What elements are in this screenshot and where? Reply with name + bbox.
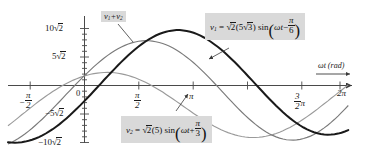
y-tick-coef-3: 10 xyxy=(43,137,52,147)
callout-sum-v2-sub: 2 xyxy=(120,15,123,21)
x-tick-label-neg-pi-over-2: − π 2 xyxy=(19,91,32,111)
radical-icon: √2 xyxy=(52,137,61,147)
x-tick-label-2pi: 2π xyxy=(337,89,346,98)
x-tick-after-4: π xyxy=(301,98,306,108)
radical-icon: √2 xyxy=(57,51,66,61)
x-tick-den-2: 2 xyxy=(134,101,141,110)
x-tick-label-3pi-over-2: 3 2 π xyxy=(294,92,305,112)
y-tick-label-neg5sqrt2: −5√2 xyxy=(45,108,64,118)
x-tick-label-pi: π xyxy=(189,92,194,101)
radical-icon: √3 xyxy=(243,22,252,32)
callout-v1-arg-var: ωt xyxy=(274,22,283,32)
callout-v1-lhs-sub: 1 xyxy=(214,26,217,32)
radical-icon: √2 xyxy=(54,23,63,33)
radical-icon: √2 xyxy=(142,125,151,135)
callout-v2-lhs-sub: 2 xyxy=(130,129,133,135)
radical-icon: √2 xyxy=(226,22,235,32)
origin-label: 0 xyxy=(76,89,80,98)
y-tick-label-10sqrt2: 10√2 xyxy=(45,23,63,33)
callout-v1-close: ) xyxy=(253,22,256,32)
x-tick-den-0: 2 xyxy=(25,101,32,110)
y-tick-label-5sqrt2: 5√2 xyxy=(52,51,66,61)
leader-line-sum xyxy=(118,24,133,42)
y-tick-radicand-3: 2 xyxy=(56,137,62,147)
callout-v2-eq: = xyxy=(135,125,140,135)
callout-v1-fn: sin xyxy=(258,22,269,32)
radical-icon: √2 xyxy=(55,108,64,118)
callout-v2-close: ) xyxy=(159,125,162,135)
close-paren-icon: ) xyxy=(201,124,207,143)
y-tick-radicand-2: 2 xyxy=(59,108,65,118)
x-tick-label-pi-over-2: π 2 xyxy=(134,91,141,111)
callout-sum: v1+v2 xyxy=(101,11,126,22)
callout-v2-fn: sin xyxy=(165,125,176,135)
y-tick-radicand-0: 2 xyxy=(58,23,64,33)
callout-v1-eq: = xyxy=(219,22,224,32)
figure-canvas: 10√2 5√2 −5√2 −10√2 − π 2 0 π 2 π 3 2 π … xyxy=(0,0,381,155)
y-tick-coef-0: 10 xyxy=(45,23,54,33)
callout-v2-equation: v2 = √2(5) sin(ωt+ π 3 ) xyxy=(121,116,212,143)
callout-v1-equation: v1 = √2(5√3) sin(ωt− π 6 ) xyxy=(205,13,305,40)
x-axis-title: ωt (rad) xyxy=(318,62,344,70)
close-paren-icon: ) xyxy=(295,21,301,40)
callout-v2-arg-var: ωt xyxy=(181,125,190,135)
y-tick-radicand-1: 2 xyxy=(60,51,66,61)
y-tick-label-neg10sqrt2: −10√2 xyxy=(38,137,62,147)
